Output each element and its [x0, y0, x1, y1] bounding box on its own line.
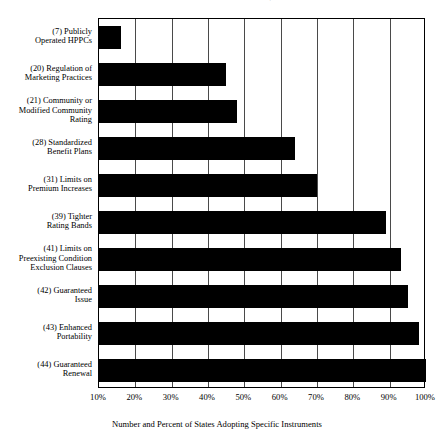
- category-label: (44) GuaranteedRenewal: [0, 360, 92, 379]
- category-label-line: (31) Limits on: [0, 175, 92, 185]
- bar-row[interactable]: [99, 130, 424, 167]
- bar-row[interactable]: [99, 241, 424, 278]
- bar[interactable]: [99, 63, 226, 86]
- x-tick-label: 60%: [260, 392, 300, 402]
- x-tick-label: 90%: [369, 392, 409, 402]
- category-label: (39) TighterRating Bands: [0, 212, 92, 231]
- category-label: (42) GuaranteedIssue: [0, 286, 92, 305]
- x-tick-label: 10%: [78, 392, 118, 402]
- category-label-line: Marketing Practices: [0, 73, 92, 83]
- bar[interactable]: [99, 211, 386, 234]
- x-tick-label: 100%: [405, 392, 440, 402]
- bar[interactable]: [99, 100, 237, 123]
- bar[interactable]: [99, 322, 419, 345]
- category-label-line: Portability: [0, 332, 92, 342]
- bar-row[interactable]: [99, 204, 424, 241]
- category-label-line: (41) Limits on: [0, 244, 92, 254]
- category-label-line: (28) Standardized: [0, 138, 92, 148]
- bar-rows: [99, 19, 424, 387]
- category-label-line: Rating Bands: [0, 221, 92, 231]
- category-label-line: (21) Community or: [0, 96, 92, 106]
- bar[interactable]: [99, 285, 408, 308]
- category-label-line: (7) Publicly: [0, 27, 92, 37]
- category-label-line: (43) Enhanced: [0, 323, 92, 333]
- bar-row[interactable]: [99, 315, 424, 352]
- x-tick-label: 50%: [223, 392, 263, 402]
- bar-row[interactable]: [99, 93, 424, 130]
- category-axis-labels: (7) PubliclyOperated HPPCs(20) Regulatio…: [0, 18, 96, 388]
- bar[interactable]: [99, 174, 317, 197]
- category-label-line: Premium Increases: [0, 184, 92, 194]
- category-label: (41) Limits onPreexisting ConditionExclu…: [0, 244, 92, 273]
- bar-row[interactable]: [99, 167, 424, 204]
- category-label-line: Rating: [0, 115, 92, 125]
- bar-row[interactable]: [99, 352, 424, 389]
- category-label: (43) EnhancedPortability: [0, 323, 92, 342]
- x-axis-tick-labels: 10%20%30%40%50%60%70%80%90%100%: [0, 392, 434, 404]
- category-label-line: Exclusion Clauses: [0, 263, 92, 273]
- bar[interactable]: [99, 26, 121, 49]
- category-label-line: Issue: [0, 295, 92, 305]
- category-label-line: (42) Guaranteed: [0, 286, 92, 296]
- x-tick-label: 40%: [187, 392, 227, 402]
- category-label: (28) StandardizedBenefit Plans: [0, 138, 92, 157]
- category-label: (7) PubliclyOperated HPPCs: [0, 27, 92, 46]
- category-label-line: Operated HPPCs: [0, 36, 92, 46]
- category-label-line: (20) Regulation of: [0, 64, 92, 74]
- bar-row[interactable]: [99, 56, 424, 93]
- chart-caption: Number and Percent of States Adopting Sp…: [0, 419, 434, 429]
- x-tick-label: 80%: [332, 392, 372, 402]
- x-tick-label: 70%: [296, 392, 336, 402]
- chart-title: in State Health Insurance Reforms, 1990–…: [0, 0, 434, 1]
- category-label-line: Benefit Plans: [0, 147, 92, 157]
- bar-row[interactable]: [99, 278, 424, 315]
- category-label-line: Modified Community: [0, 106, 92, 116]
- category-label: (31) Limits onPremium Increases: [0, 175, 92, 194]
- bar[interactable]: [99, 359, 426, 382]
- bar[interactable]: [99, 248, 401, 271]
- category-label: (20) Regulation ofMarketing Practices: [0, 64, 92, 83]
- x-tick-label: 20%: [114, 392, 154, 402]
- category-label-line: (44) Guaranteed: [0, 360, 92, 370]
- x-tick-label: 30%: [151, 392, 191, 402]
- bar[interactable]: [99, 137, 295, 160]
- bar-row[interactable]: [99, 19, 424, 56]
- category-label-line: Preexisting Condition: [0, 254, 92, 264]
- category-label-line: Renewal: [0, 369, 92, 379]
- plot-area: [98, 18, 425, 388]
- category-label: (21) Community orModified CommunityRatin…: [0, 96, 92, 125]
- category-label-line: (39) Tighter: [0, 212, 92, 222]
